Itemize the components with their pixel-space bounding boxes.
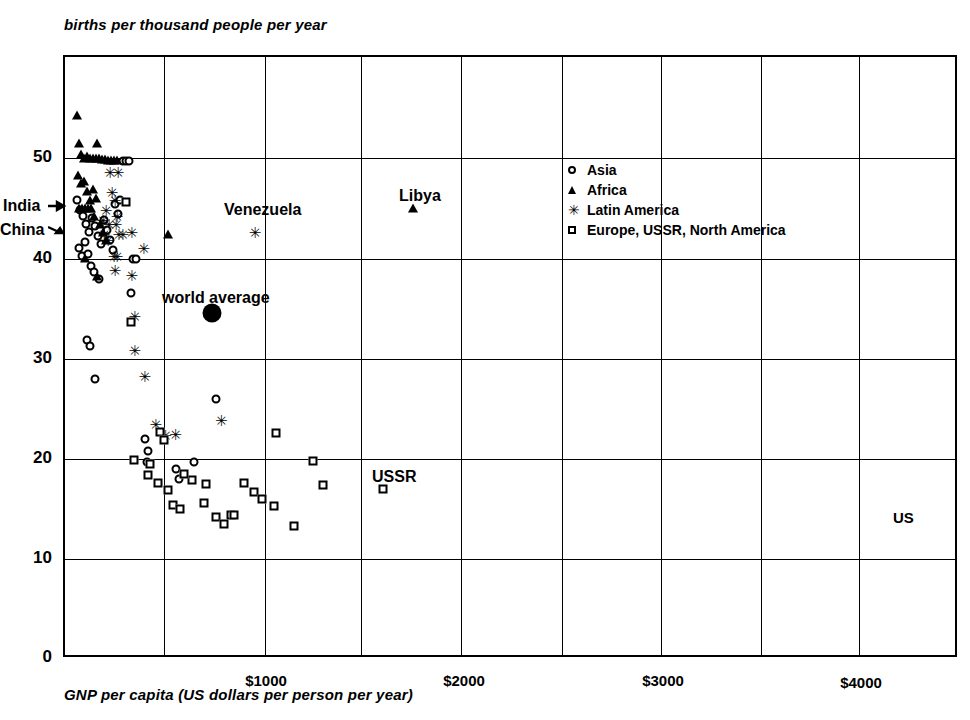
world-average-label: world average [162, 289, 270, 307]
europe-ussr-namerica-point [319, 481, 328, 490]
europe-ussr-namerica-point [269, 501, 278, 510]
asia-point [124, 157, 133, 166]
asia-point [140, 435, 149, 444]
europe-ussr-namerica-point [219, 519, 228, 528]
latin-america-point: ✳ [139, 373, 149, 383]
square-marker-icon [568, 226, 584, 234]
africa-point [80, 253, 90, 262]
asia-point [212, 395, 221, 404]
gridline-v-4 [461, 57, 462, 655]
europe-ussr-namerica-point [180, 470, 189, 479]
gridline-v-8 [859, 57, 860, 655]
europe-ussr-namerica-point [144, 471, 153, 480]
gridline-h-40 [65, 259, 955, 260]
x-tick-2000: $2000 [443, 672, 485, 689]
asia-point [85, 342, 94, 351]
africa-point [92, 139, 102, 148]
europe-ussr-namerica-point [289, 521, 298, 530]
gridline-v-5 [562, 57, 563, 655]
libya-label: Libya [399, 187, 441, 205]
gridline-v-2 [265, 57, 266, 655]
y-tick-50: 50 [0, 147, 52, 167]
legend-item-latin-america: ✳ Latin America [568, 200, 786, 220]
y-tick-20: 20 [0, 448, 52, 468]
latin-america-point: ✳ [169, 431, 179, 441]
legend-item-europe-ussr-north-america: Europe, USSR, North America [568, 220, 786, 240]
y-tick-30: 30 [0, 348, 52, 368]
star-marker-icon: ✳ [568, 205, 584, 215]
latin-america-point: ✳ [129, 347, 139, 357]
gridline-v-3 [361, 57, 362, 655]
latin-america-point: ✳ [215, 417, 225, 427]
latin-america-point: ✳ [126, 272, 136, 282]
europe-ussr-namerica-point [202, 480, 211, 489]
europe-ussr-namerica-point [121, 197, 130, 206]
latin-america-point: ✳ [249, 229, 259, 239]
chart-page: births per thousand people per year 0 10… [0, 0, 970, 720]
europe-ussr-namerica-point [229, 510, 238, 519]
asia-point [144, 447, 153, 456]
legend-label-latin-america: Latin America [587, 200, 679, 220]
africa-point [72, 111, 82, 120]
x-axis-title: GNP per capita (US dollars per person pe… [64, 686, 413, 703]
gridline-h-30 [65, 359, 955, 360]
europe-ussr-namerica-point [164, 486, 173, 495]
latin-america-point: ✳ [138, 245, 148, 255]
legend-item-asia: Asia [568, 160, 786, 180]
europe-ussr-namerica-point [188, 476, 197, 485]
europe-ussr-namerica-point [309, 457, 318, 466]
gridline-h-50 [65, 158, 955, 159]
europe-ussr-namerica-point [146, 460, 155, 469]
legend-label-europe-ussr-north-america: Europe, USSR, North America [587, 220, 786, 240]
ussr-label: USSR [372, 468, 416, 486]
us-label: US [893, 509, 914, 526]
latin-america-point: ✳ [126, 229, 136, 239]
legend-item-africa: Africa [568, 180, 786, 200]
india-arrow-icon [48, 200, 70, 212]
asia-point [80, 237, 89, 246]
europe-ussr-namerica-point [154, 479, 163, 488]
y-tick-40: 40 [0, 248, 52, 268]
circle-marker-icon [568, 166, 584, 174]
europe-ussr-namerica-point [378, 485, 387, 494]
europe-ussr-namerica-point [257, 494, 266, 503]
latin-america-point: ✳ [112, 169, 122, 179]
africa-point [163, 229, 173, 238]
y-tick-10: 10 [0, 548, 52, 568]
europe-ussr-namerica-point [239, 479, 248, 488]
gridline-v-7 [761, 57, 762, 655]
asia-point [126, 288, 135, 297]
gridline-h-10 [65, 559, 955, 560]
europe-ussr-namerica-point [160, 436, 169, 445]
gridline-v-6 [661, 57, 662, 655]
europe-ussr-namerica-point [271, 429, 280, 438]
triangle-marker-icon [568, 186, 584, 194]
gridline-v-1 [164, 57, 165, 655]
gridline-h-20 [65, 459, 955, 460]
africa-point [92, 271, 102, 280]
china-label: China [0, 221, 44, 239]
venezuela-label: Venezuela [224, 201, 301, 219]
latin-america-point: ✳ [102, 237, 112, 247]
europe-ussr-namerica-point [176, 504, 185, 513]
plot-area: ✳✳✳✳✳✳✳✳✳✳✳✳✳✳✳✳✳✳✳✳✳✳✳✳✳✳✳ Asia Africa … [63, 55, 957, 657]
india-label: India [3, 197, 40, 215]
asia-point [190, 458, 199, 467]
x-tick-3000: $3000 [642, 672, 684, 689]
europe-ussr-namerica-point [129, 456, 138, 465]
legend-label-africa: Africa [587, 180, 627, 200]
asia-point [90, 375, 99, 384]
y-axis-title: births per thousand people per year [64, 16, 327, 33]
legend: Asia Africa ✳ Latin America Europe, USSR… [568, 160, 786, 240]
legend-label-asia: Asia [587, 160, 617, 180]
africa-point [74, 139, 84, 148]
y-tick-0: 0 [0, 647, 52, 667]
x-tick-4000: $4000 [840, 674, 882, 691]
europe-ussr-namerica-point [200, 498, 209, 507]
europe-ussr-namerica-point [126, 317, 135, 326]
china-arrow-icon [48, 224, 70, 238]
latin-america-point: ✳ [109, 267, 119, 277]
